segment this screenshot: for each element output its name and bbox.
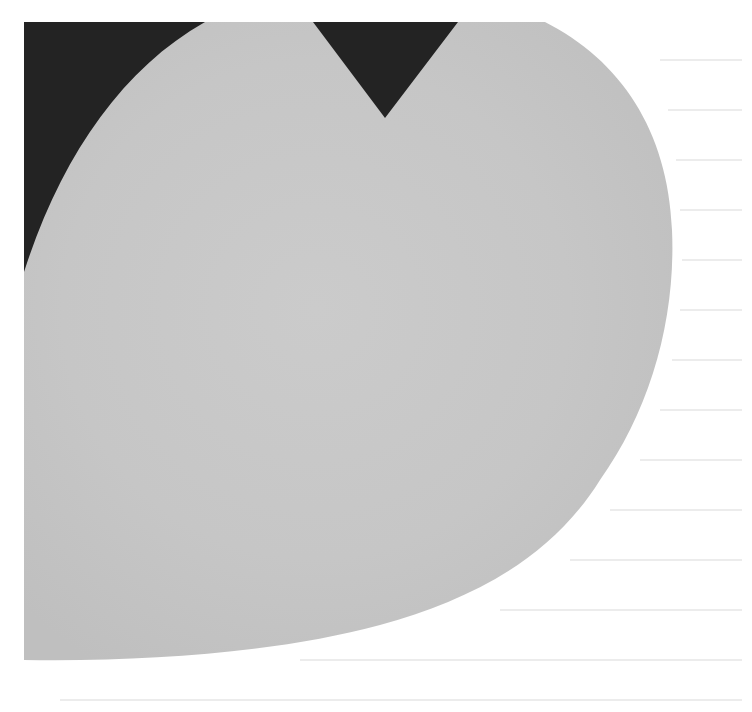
gray-blob-shape bbox=[24, 22, 672, 660]
abstract-composition bbox=[0, 0, 752, 712]
artwork-page bbox=[0, 0, 752, 712]
